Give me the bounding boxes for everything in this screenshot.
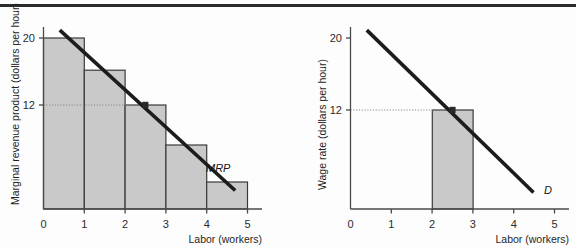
chart-panel-left: 20 12 0 1 2 3 4 5 Marginal revenue produ… [0,0,288,248]
y-tick-label-12: 12 [23,99,35,111]
x-tick-label-5: 5 [244,218,250,230]
bar-worker-5 [207,182,248,209]
x-tick-label-0: 0 [40,218,46,230]
x-axis-title-left: Labor (workers) [188,233,262,245]
mrp-chart-svg: 20 12 0 1 2 3 4 5 Marginal revenue produ… [0,0,288,248]
bar-quantity-demanded [432,110,473,209]
figure-page: 20 12 0 1 2 3 4 5 Marginal revenue produ… [0,0,576,248]
bar-worker-1 [44,38,85,209]
equilibrium-marker [142,102,148,108]
demand-curve-label: D [544,184,552,196]
equilibrium-marker [449,107,455,113]
bar-worker-4 [166,145,207,209]
x-tick-label-4: 4 [204,218,210,230]
y-tick-label-20: 20 [330,32,342,44]
bar-series-mrp [44,38,248,209]
demand-chart-svg: 20 12 0 1 2 3 4 5 Wage rate (dollars per… [288,0,576,248]
y-tick-label-20: 20 [23,32,35,44]
bar-worker-2 [84,70,125,209]
x-tick-label-1: 1 [388,218,394,230]
y-tick-label-12: 12 [330,104,342,116]
y-axis-title-right: Wage rate (dollars per hour) [316,59,328,190]
x-tick-label-3: 3 [470,218,476,230]
x-tick-label-2: 2 [122,218,128,230]
x-tick-label-0: 0 [347,218,353,230]
y-axis-title-left: Marginal revenue product (dollars per ho… [9,3,21,205]
x-axis-title-right: Labor (workers) [495,233,569,245]
x-tick-label-3: 3 [163,218,169,230]
x-tick-label-2: 2 [429,218,435,230]
chart-panel-right: 20 12 0 1 2 3 4 5 Wage rate (dollars per… [288,0,576,248]
x-tick-label-5: 5 [551,218,557,230]
x-tick-label-4: 4 [511,218,517,230]
x-tick-label-1: 1 [81,218,87,230]
mrp-curve-label: MRP [206,162,231,174]
